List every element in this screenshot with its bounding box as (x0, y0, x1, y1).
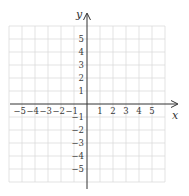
y-tick-label: 3 (79, 60, 84, 70)
x-axis-label: x (172, 109, 179, 122)
x-tick-label: 2 (110, 106, 115, 116)
x-tick-label: −5 (13, 106, 26, 116)
y-tick-label: −1 (71, 112, 84, 122)
y-tick-label: 1 (79, 86, 84, 96)
coordinate-plane: x y −5−4−3−2−112345 54321−1−2−3−4−5 (0, 0, 189, 196)
y-tick-label: −3 (71, 138, 84, 148)
x-tick-label: 1 (97, 106, 102, 116)
x-tick-label: −2 (52, 106, 65, 116)
y-tick-label: 4 (79, 47, 84, 57)
y-axis-label: y (75, 8, 83, 21)
x-tick-label: 5 (149, 106, 154, 116)
x-tick-label: 3 (123, 106, 128, 116)
x-tick-label: 4 (136, 106, 141, 116)
x-tick-label: −4 (26, 106, 39, 116)
y-tick-label: −4 (71, 151, 84, 161)
x-tick-labels: −5−4−3−2−112345 (13, 106, 154, 116)
y-tick-label: 2 (79, 73, 84, 83)
coordinate-grid-svg: x y −5−4−3−2−112345 54321−1−2−3−4−5 (0, 0, 189, 196)
y-tick-label: −2 (71, 125, 84, 135)
y-tick-label: −5 (71, 164, 84, 174)
y-tick-label: 5 (79, 34, 84, 44)
x-tick-label: −3 (39, 106, 52, 116)
